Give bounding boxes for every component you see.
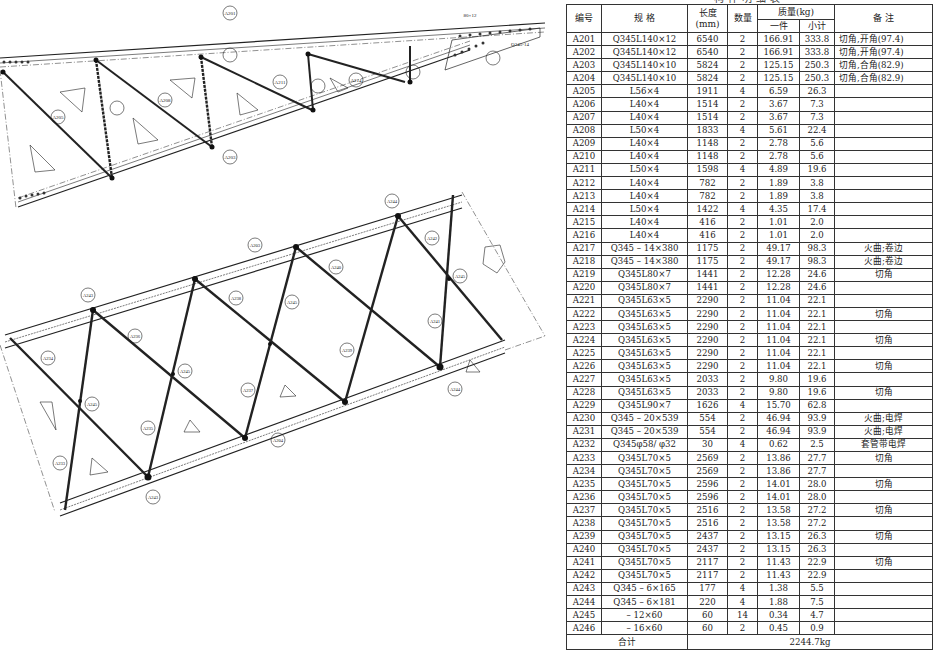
part-qty: 2 bbox=[728, 150, 758, 163]
part-note: 切角,合角(82.9) bbox=[835, 72, 933, 85]
part-id: A243 bbox=[567, 582, 602, 595]
part-length: 1441 bbox=[688, 281, 728, 294]
part-spec: Q345L70×5 bbox=[602, 556, 688, 569]
table-row: A210L40×4114822.785.6 bbox=[567, 150, 933, 163]
part-qty: 2 bbox=[728, 334, 758, 347]
part-qty: 2 bbox=[728, 412, 758, 425]
part-note: 切角 bbox=[835, 268, 933, 281]
part-id: A206 bbox=[567, 98, 602, 111]
part-mass-each: 12.28 bbox=[758, 281, 800, 294]
part-mass-each: 4.35 bbox=[758, 203, 800, 216]
part-id: A235 bbox=[567, 478, 602, 491]
part-note: 切角 bbox=[835, 556, 933, 569]
table-body: A201Q345L140×1265402166.91333.8切角,开角(97.… bbox=[567, 33, 933, 635]
table-row: A240Q345L70×52437213.1526.3 bbox=[567, 543, 933, 556]
table-row: A245– 12×6060140.344.7 bbox=[567, 609, 933, 622]
part-mass-each: 6.59 bbox=[758, 85, 800, 98]
part-note bbox=[835, 609, 933, 622]
part-qty: 2 bbox=[728, 530, 758, 543]
part-qty: 2 bbox=[728, 491, 758, 504]
part-id: A204 bbox=[567, 72, 602, 85]
part-mass-subtotal: 27.2 bbox=[800, 504, 835, 517]
table-row: A216L40×441621.012.0 bbox=[567, 229, 933, 242]
part-mass-subtotal: 3.8 bbox=[800, 177, 835, 190]
part-length: 2290 bbox=[688, 360, 728, 373]
part-id: A238 bbox=[567, 517, 602, 530]
part-mass-each: 11.04 bbox=[758, 307, 800, 320]
part-mass-subtotal: 22.1 bbox=[800, 360, 835, 373]
part-qty: 2 bbox=[728, 281, 758, 294]
part-mass-each: 0.45 bbox=[758, 622, 800, 635]
part-mass-subtotal: 24.6 bbox=[800, 281, 835, 294]
part-spec: Q345L63×5 bbox=[602, 347, 688, 360]
part-id: A205 bbox=[567, 85, 602, 98]
part-id: A202 bbox=[567, 46, 602, 59]
part-qty: 2 bbox=[728, 72, 758, 85]
table-row: A237Q345L70×52516213.5827.2切角 bbox=[567, 504, 933, 517]
part-qty: 2 bbox=[728, 321, 758, 334]
part-note bbox=[835, 543, 933, 556]
part-length: 1441 bbox=[688, 268, 728, 281]
part-length: 1911 bbox=[688, 85, 728, 98]
part-mass-subtotal: 5.6 bbox=[800, 137, 835, 150]
part-id: A233 bbox=[567, 452, 602, 465]
part-length: 1175 bbox=[688, 242, 728, 255]
col-qty-header: 数量 bbox=[728, 5, 758, 33]
part-qty: 2 bbox=[728, 255, 758, 268]
part-length: 2569 bbox=[688, 452, 728, 465]
part-qty: 2 bbox=[728, 504, 758, 517]
part-length: 1148 bbox=[688, 150, 728, 163]
part-qty: 4 bbox=[728, 399, 758, 412]
part-id: A215 bbox=[567, 216, 602, 229]
part-qty: 2 bbox=[728, 294, 758, 307]
part-qty: 4 bbox=[728, 124, 758, 137]
part-id: A230 bbox=[567, 412, 602, 425]
part-spec: L40×4 bbox=[602, 137, 688, 150]
table-row: A222Q345L63×52290211.0422.1切角 bbox=[567, 307, 933, 320]
part-spec: Q345L63×5 bbox=[602, 307, 688, 320]
part-qty: 2 bbox=[728, 517, 758, 530]
part-spec: L40×4 bbox=[602, 98, 688, 111]
part-mass-subtotal: 250.3 bbox=[800, 59, 835, 72]
part-spec: L50×4 bbox=[602, 124, 688, 137]
part-length: 60 bbox=[688, 609, 728, 622]
part-length: 60 bbox=[688, 622, 728, 635]
part-note: 套管带电焊 bbox=[835, 438, 933, 451]
col-mass-subtotal-header: 小计 bbox=[800, 20, 835, 33]
part-length: 220 bbox=[688, 596, 728, 609]
part-spec: Q345L63×5 bbox=[602, 321, 688, 334]
part-mass-subtotal: 5.5 bbox=[800, 582, 835, 595]
part-length: 2569 bbox=[688, 465, 728, 478]
part-note bbox=[835, 190, 933, 203]
part-note bbox=[835, 347, 933, 360]
svg-text:A233: A233 bbox=[55, 461, 66, 466]
table-row: A239Q345L70×52437213.1526.3切角 bbox=[567, 530, 933, 543]
part-id: A201 bbox=[567, 33, 602, 46]
col-id-header: 编号 bbox=[567, 5, 602, 33]
part-note bbox=[835, 582, 933, 595]
part-mass-subtotal: 27.7 bbox=[800, 465, 835, 478]
part-length: 782 bbox=[688, 177, 728, 190]
lower-truss: A243A203A244 A234A236A238A240A242 A245A2… bbox=[0, 192, 545, 516]
part-note: 切角 bbox=[835, 530, 933, 543]
part-mass-each: 11.04 bbox=[758, 334, 800, 347]
part-mass-each: 125.15 bbox=[758, 72, 800, 85]
part-qty: 2 bbox=[728, 465, 758, 478]
part-mass-subtotal: 98.3 bbox=[800, 242, 835, 255]
part-mass-each: 13.86 bbox=[758, 465, 800, 478]
svg-text:A239: A239 bbox=[342, 348, 353, 353]
part-mass-subtotal: 22.4 bbox=[800, 124, 835, 137]
svg-text:A236: A236 bbox=[130, 334, 141, 339]
part-note bbox=[835, 465, 933, 478]
table-row: A235Q345L70×52596214.0128.0切角 bbox=[567, 478, 933, 491]
part-mass-subtotal: 7.3 bbox=[800, 98, 835, 111]
part-note: 切角 bbox=[835, 334, 933, 347]
part-mass-subtotal: 19.6 bbox=[800, 373, 835, 386]
part-mass-subtotal: 2.0 bbox=[800, 229, 835, 242]
part-qty: 2 bbox=[728, 452, 758, 465]
svg-text:A238: A238 bbox=[231, 296, 242, 301]
table-row: A232Q345φ58/ φ323040.622.5套管带电焊 bbox=[567, 438, 933, 451]
part-length: 1175 bbox=[688, 255, 728, 268]
part-note: 火曲;电焊 bbox=[835, 425, 933, 438]
part-spec: Q345L80×7 bbox=[602, 268, 688, 281]
